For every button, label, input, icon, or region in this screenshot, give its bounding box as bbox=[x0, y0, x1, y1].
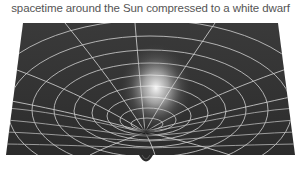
gravity-well-illustration bbox=[0, 0, 301, 171]
white-dwarf-glow bbox=[120, 44, 192, 132]
funnel-tip bbox=[139, 155, 153, 162]
figure: spacetime around the Sun compressed to a… bbox=[0, 0, 301, 171]
